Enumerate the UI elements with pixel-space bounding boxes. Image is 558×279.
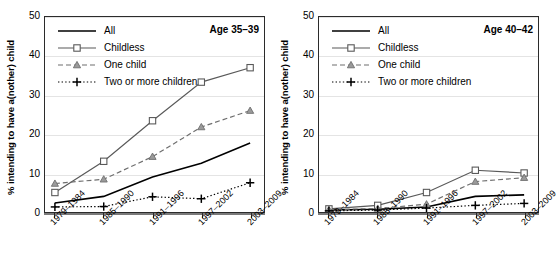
legend-key-square-open-icon <box>330 41 372 55</box>
chart-panel-age-40-42: % intending to have a(nother) child 0102… <box>274 0 547 279</box>
data-point-square-open-marker <box>149 118 155 124</box>
y-axis-tick-label: 10 <box>18 169 40 179</box>
legend-label: One child <box>378 60 420 70</box>
x-axis-left: 1979–19841985–19901991–19961997–20022003… <box>44 213 265 279</box>
y-axis-tick-label: 0 <box>292 208 314 218</box>
legend-key-none-icon <box>330 24 372 38</box>
data-point-plus-marker <box>148 193 156 201</box>
y-axis-tick-label: 40 <box>18 50 40 60</box>
data-point-plus-marker <box>246 179 254 187</box>
y-axis-tick-label: 30 <box>18 90 40 100</box>
legend-item[interactable]: Childless <box>56 39 197 56</box>
data-point-square-open-marker <box>247 65 253 71</box>
data-point-plus-marker <box>471 201 479 209</box>
panel-title-right: Age 40–42 <box>484 24 533 35</box>
legend-item[interactable]: One child <box>330 56 471 73</box>
legend-left: AllChildlessOne childTwo or more childre… <box>56 22 197 90</box>
y-axis-tick-label: 40 <box>292 50 314 60</box>
data-point-square-open-marker <box>198 79 204 85</box>
y-axis-tick-label: 50 <box>18 11 40 21</box>
legend-label: Childless <box>378 43 419 53</box>
legend-right: AllChildlessOne childTwo or more childre… <box>330 22 471 90</box>
data-point-triangle-marker <box>100 176 107 182</box>
legend-key-plus-icon <box>56 75 98 89</box>
data-point-square-open-marker <box>423 189 429 195</box>
y-axis-tick-label: 10 <box>292 169 314 179</box>
legend-key-square-open-icon <box>56 41 98 55</box>
legend-label: All <box>104 26 115 36</box>
legend-key-plus-icon <box>330 75 372 89</box>
legend-key-triangle-icon <box>330 58 372 72</box>
data-point-square-open-marker <box>52 189 58 195</box>
legend-label: One child <box>104 60 146 70</box>
y-axis-tick-label: 20 <box>292 129 314 139</box>
data-point-square-open-marker <box>101 158 107 164</box>
y-axis-tick-label: 20 <box>18 129 40 139</box>
legend-key-triangle-icon <box>56 58 98 72</box>
data-point-plus-marker <box>520 199 528 207</box>
x-axis-right: 1979–19841985–19901991–19961997–20022003… <box>318 213 539 279</box>
y-axis-label-right: % intending to have a(nother) child <box>276 14 292 220</box>
y-axis-label-left: % intending to have a(nother) child <box>2 14 18 220</box>
y-axis-tick-label: 30 <box>292 90 314 100</box>
legend-item[interactable]: Childless <box>330 39 471 56</box>
legend-label: Childless <box>104 43 145 53</box>
legend-item[interactable]: One child <box>56 56 197 73</box>
panel-title-left: Age 35–39 <box>210 24 259 35</box>
y-axis-tick-label: 50 <box>292 11 314 21</box>
legend-label: Two or more children <box>378 77 471 87</box>
legend-label: All <box>378 26 389 36</box>
legend-item[interactable]: All <box>330 22 471 39</box>
legend-key-none-icon <box>56 24 98 38</box>
legend-item[interactable]: All <box>56 22 197 39</box>
data-point-triangle-marker <box>247 107 254 113</box>
data-point-plus-marker <box>197 195 205 203</box>
y-axis-tick-label: 0 <box>18 208 40 218</box>
data-point-triangle-marker <box>149 153 156 159</box>
legend-label: Two or more children <box>104 77 197 87</box>
legend-item[interactable]: Two or more children <box>56 73 197 90</box>
data-point-square-open-marker <box>472 167 478 173</box>
chart-panel-age-35-39: % intending to have a(nother) child 0102… <box>0 0 273 279</box>
legend-item[interactable]: Two or more children <box>330 73 471 90</box>
